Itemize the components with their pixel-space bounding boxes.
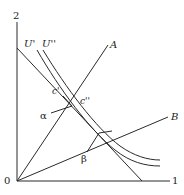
u-prime-label: U' (24, 39, 35, 49)
economic-diagram (0, 0, 184, 195)
beta-label: β (81, 154, 87, 164)
alpha-segment (51, 106, 72, 113)
ray-a (17, 45, 108, 181)
u-double-prime-label: U'' (42, 39, 56, 49)
x-axis-max-label: 1 (172, 176, 178, 186)
alpha-label: α (40, 111, 47, 121)
ray-a-label: A (110, 40, 117, 50)
y-axis-max-label: 2 (13, 11, 19, 21)
ray-b-label: B (171, 112, 178, 122)
curve-u-double-prime (43, 50, 160, 160)
constraint-line (17, 48, 142, 181)
c-prime-label: c' (52, 87, 60, 96)
c-double-prime-label: c'' (80, 97, 90, 106)
origin-label: 0 (4, 176, 10, 186)
ray-b (17, 117, 168, 181)
curve-u-prime (37, 50, 160, 166)
